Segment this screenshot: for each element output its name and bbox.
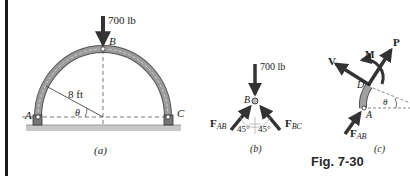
panel-c-shear-v: V xyxy=(328,56,336,67)
panel-a-point-c: C xyxy=(177,108,184,119)
panel-b-force-ab: FAB xyxy=(210,118,227,131)
panel-c-angle-label: θ xyxy=(383,98,387,107)
panel-a-load-label: 700 lb xyxy=(108,15,136,26)
panel-b-load-label: 700 lb xyxy=(260,62,285,72)
panel-b-force-bc: FBC xyxy=(285,118,302,131)
panel-a-radius-label: 8 ft xyxy=(68,89,83,100)
figure-caption: Fig. 7-30 xyxy=(311,154,364,169)
panel-c-force-ab: FAB xyxy=(350,128,367,141)
panel-c-normal-p: P xyxy=(393,37,400,48)
panel-c-point-d: D xyxy=(357,80,364,90)
panel-b-caption: (b) xyxy=(250,144,262,154)
panel-c-caption: (c) xyxy=(374,144,385,154)
panel-a-point-a: A xyxy=(25,110,32,121)
panel-b-angle-right: 45° xyxy=(258,125,271,134)
panel-a-point-b: B xyxy=(109,36,116,47)
panel-a-angle-label: θ xyxy=(75,108,80,118)
panel-c-point-a: A xyxy=(366,110,372,120)
panel-b-point-b: B xyxy=(244,95,250,105)
panel-b-angle-left: 45° xyxy=(237,125,250,134)
panel-a-arch-structure xyxy=(22,16,181,131)
panel-c-free-body-segment-ad xyxy=(336,50,410,134)
figure-drawing xyxy=(0,0,410,176)
panel-a-caption: (a) xyxy=(94,145,107,156)
panel-c-moment-m: M xyxy=(365,50,374,60)
